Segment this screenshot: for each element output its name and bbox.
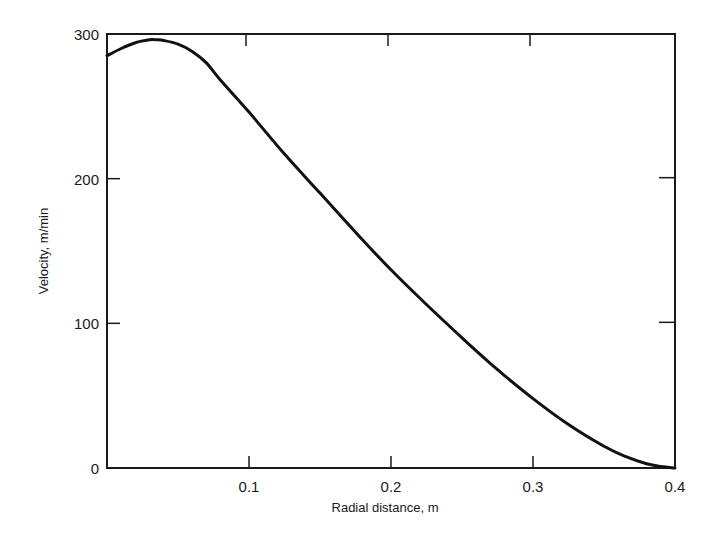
axis-ticks: [107, 34, 675, 468]
y-tick-label: 200: [74, 171, 99, 188]
y-tick-label: 300: [74, 26, 99, 43]
y-tick-label: 100: [74, 315, 99, 332]
x-tick-label: 0.4: [665, 478, 686, 495]
x-axis-label: Radial distance, m: [332, 500, 439, 515]
plot-frame: [107, 34, 675, 468]
velocity-curve: [107, 40, 675, 468]
x-tick-label: 0.3: [523, 478, 544, 495]
velocity-chart: 0.10.20.30.40100200300 Radial distance, …: [0, 0, 722, 545]
x-tick-label: 0.1: [239, 478, 260, 495]
x-tick-label: 0.2: [381, 478, 402, 495]
tick-labels: 0.10.20.30.40100200300: [74, 26, 685, 495]
y-tick-label: 0: [91, 460, 99, 477]
y-axis-label: Velocity, m/min: [36, 208, 51, 294]
